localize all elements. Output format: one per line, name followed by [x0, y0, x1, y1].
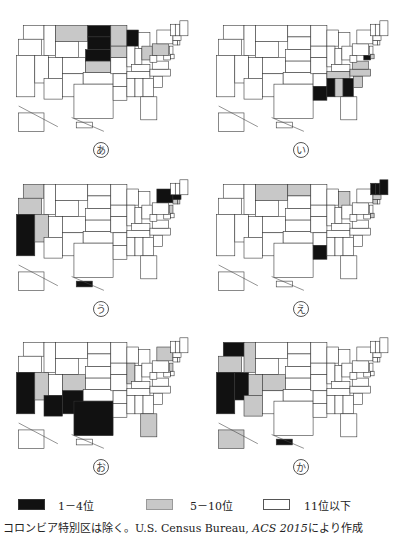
map-label: う: [93, 301, 109, 317]
state-north-dakota: [288, 25, 311, 37]
state-nebraska: [285, 50, 310, 62]
legend-swatch-mid: [146, 499, 173, 510]
state-texas: [74, 243, 113, 278]
state-missouri: [311, 375, 327, 391]
state-rhode-island: [378, 357, 380, 362]
state-missouri: [311, 58, 327, 74]
map-label: か: [293, 459, 309, 475]
state-oregon: [19, 356, 42, 372]
state-wisconsin: [327, 347, 339, 363]
legend-label-mid: 5－10位: [190, 497, 233, 513]
state-utah: [49, 217, 63, 238]
state-indiana: [135, 48, 142, 64]
state-west-virginia: [150, 214, 157, 221]
state-nebraska: [85, 50, 110, 62]
state-south-carolina: [153, 235, 162, 247]
state-north-carolina: [150, 228, 171, 235]
us-map: [6, 325, 196, 460]
state-illinois: [127, 363, 135, 384]
state-maryland: [164, 372, 171, 377]
state-kansas: [85, 378, 110, 390]
state-delaware: [371, 54, 374, 59]
state-connecticut: [373, 357, 378, 362]
state-alabama: [135, 78, 143, 96]
state-mississippi: [327, 237, 335, 255]
state-nebraska: [285, 209, 310, 221]
state-kentucky: [132, 382, 150, 389]
state-georgia: [343, 78, 353, 96]
state-pennsylvania: [152, 361, 168, 373]
state-wyoming: [256, 42, 279, 58]
state-south-dakota: [288, 37, 311, 50]
state-maine: [380, 21, 388, 36]
state-tennessee: [127, 388, 150, 395]
state-new-jersey: [370, 363, 373, 371]
state-maine: [180, 180, 188, 195]
state-alabama: [135, 237, 143, 255]
state-new-jersey: [170, 46, 173, 54]
state-arizona: [244, 395, 262, 416]
state-montana: [256, 342, 288, 358]
state-massachusetts: [173, 195, 181, 200]
state-oregon: [19, 198, 42, 214]
map-label: い: [293, 142, 309, 158]
state-delaware: [371, 371, 374, 376]
state-colorado: [62, 375, 85, 391]
state-arkansas: [313, 74, 327, 87]
state-connecticut: [373, 40, 378, 45]
state-new-hampshire: [375, 341, 380, 353]
state-massachusetts: [373, 353, 381, 358]
state-delaware: [171, 213, 174, 218]
state-idaho: [244, 25, 256, 55]
state-tennessee: [327, 388, 350, 395]
state-texas: [274, 84, 313, 119]
state-california: [16, 55, 34, 96]
state-minnesota: [111, 25, 127, 46]
state-minnesota: [111, 184, 127, 205]
state-south-carolina: [153, 393, 162, 405]
state-iowa: [111, 363, 127, 375]
state-north-dakota: [88, 184, 111, 196]
state-texas: [274, 401, 313, 436]
state-south-dakota: [88, 354, 111, 367]
state-louisiana: [113, 86, 127, 100]
state-rhode-island: [378, 199, 380, 204]
state-south-dakota: [88, 196, 111, 209]
state-texas: [74, 84, 113, 119]
state-florida: [341, 97, 357, 120]
state-alabama: [135, 395, 143, 413]
state-alaska: [19, 430, 44, 448]
state-indiana: [335, 207, 342, 223]
state-montana: [256, 184, 288, 200]
state-pennsylvania: [352, 203, 368, 215]
state-tennessee: [327, 71, 350, 78]
state-tennessee: [127, 71, 150, 78]
state-oregon: [219, 356, 242, 372]
state-new-jersey: [370, 205, 373, 213]
state-pennsylvania: [352, 44, 368, 56]
state-connecticut: [373, 199, 378, 204]
state-missouri: [311, 217, 327, 233]
state-arizona: [44, 78, 62, 99]
state-oklahoma: [83, 390, 113, 402]
state-new-jersey: [170, 363, 173, 371]
state-utah: [249, 375, 263, 396]
state-louisiana: [113, 403, 127, 417]
state-vermont: [371, 341, 376, 353]
state-kentucky: [132, 65, 150, 72]
state-idaho: [44, 342, 56, 372]
state-pennsylvania: [152, 203, 168, 215]
state-tennessee: [127, 230, 150, 237]
state-georgia: [143, 78, 153, 96]
state-colorado: [262, 217, 285, 233]
state-vermont: [171, 183, 176, 195]
map-panel: い: [206, 8, 396, 158]
state-utah: [249, 58, 263, 79]
state-louisiana: [313, 403, 327, 417]
state-alabama: [335, 395, 343, 413]
state-kansas: [285, 378, 310, 390]
state-iowa: [311, 363, 327, 375]
state-connecticut: [173, 40, 178, 45]
legend-swatch-top: [18, 499, 45, 510]
state-illinois: [327, 205, 335, 226]
